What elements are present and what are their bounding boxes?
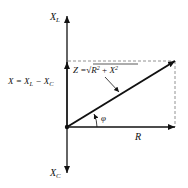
xc-label: XC xyxy=(49,167,61,180)
z-label-pointer-arrow xyxy=(105,77,119,92)
origin-dot xyxy=(65,125,69,129)
xl-label: XL xyxy=(49,11,60,24)
phi-label: φ xyxy=(101,113,106,123)
x-equation-label: X = XL − XC xyxy=(7,76,54,87)
z-formula-label: Z =√R2 + X2 xyxy=(73,65,118,75)
phasor-diagram: XL XC X = XL − XC Z =√R2 + X2 φ R xyxy=(0,0,188,188)
phi-angle-arc xyxy=(94,114,97,127)
r-label: R xyxy=(134,131,141,142)
